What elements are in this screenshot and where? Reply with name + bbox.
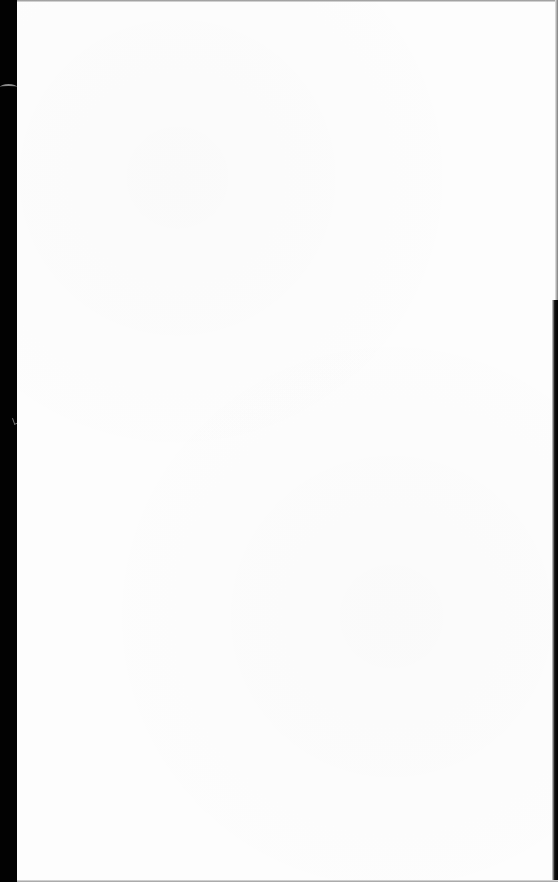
scanned-document bbox=[0, 0, 558, 882]
blank-page bbox=[17, 2, 552, 880]
page-curl-mark bbox=[0, 84, 17, 90]
scan-border-left bbox=[0, 0, 17, 882]
scan-border-right-bottom bbox=[552, 300, 558, 882]
